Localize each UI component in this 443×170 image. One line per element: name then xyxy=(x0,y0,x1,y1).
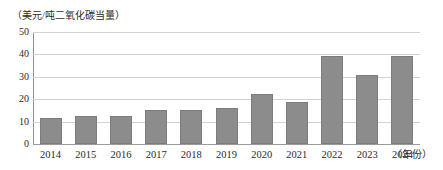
x-axis-tick-label: 2020 xyxy=(242,148,282,162)
y-axis-tick-label: 30 xyxy=(5,72,29,82)
x-axis-tick-label: 2022 xyxy=(312,148,352,162)
bar-chart-figure: （美元/吨二氧化碳当量） 01020304050 201420152016201… xyxy=(0,0,443,170)
gridline xyxy=(33,144,420,145)
bar xyxy=(356,75,378,144)
x-axis-tick-label: 2023 xyxy=(347,148,387,162)
bar xyxy=(145,110,167,144)
bar xyxy=(216,108,238,144)
x-axis-tick-label: 2016 xyxy=(101,148,141,162)
bar xyxy=(40,118,62,144)
x-axis-tick-label: 2015 xyxy=(66,148,106,162)
bar xyxy=(251,94,273,144)
plot-area xyxy=(33,32,420,144)
y-axis-tick-label: 50 xyxy=(5,27,29,37)
bar xyxy=(180,110,202,144)
bar xyxy=(321,56,343,144)
y-axis-tick-labels: 01020304050 xyxy=(0,0,29,170)
x-axis-unit-caption: （年份） xyxy=(392,148,432,162)
x-axis-tick-label: 2017 xyxy=(136,148,176,162)
y-axis-tick-label: 40 xyxy=(5,49,29,59)
bar xyxy=(286,102,308,144)
bars-layer xyxy=(33,32,420,144)
y-axis-tick-label: 20 xyxy=(5,94,29,104)
x-axis-tick-label: 2021 xyxy=(277,148,317,162)
y-axis-tick-label: 0 xyxy=(5,139,29,149)
bar xyxy=(75,116,97,144)
x-axis-tick-label: 2019 xyxy=(207,148,247,162)
x-axis-tick-labels: 2014201520162017201820192020202120222023… xyxy=(33,148,420,166)
bar xyxy=(110,116,132,144)
bar xyxy=(391,56,413,144)
x-axis-tick-label: 2014 xyxy=(31,148,71,162)
y-axis-tick-label: 10 xyxy=(5,117,29,127)
x-axis-tick-label: 2018 xyxy=(171,148,211,162)
